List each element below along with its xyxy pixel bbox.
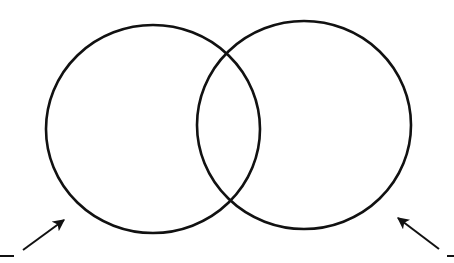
left-arrow-icon [23, 220, 64, 250]
arrows-group [23, 218, 439, 250]
right-set-circle [197, 21, 411, 229]
venn-diagram [0, 0, 454, 263]
right-arrow-icon [398, 218, 439, 249]
left-set-circle [46, 25, 260, 233]
circles-group [46, 21, 411, 233]
